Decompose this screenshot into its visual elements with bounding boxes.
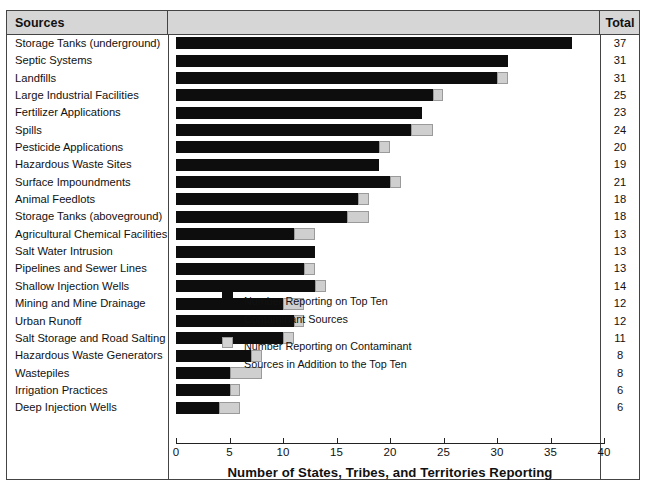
total-value: 18 xyxy=(600,208,640,225)
bar-segment-additional xyxy=(379,141,390,153)
bar-segment-additional xyxy=(294,228,315,240)
bar-segment-additional xyxy=(411,124,432,136)
bar-segment-top-ten xyxy=(176,55,508,67)
bar-segment-additional xyxy=(497,72,508,84)
legend-item: Number Reporting on Contaminant Sources … xyxy=(222,336,437,372)
bar-segment-top-ten xyxy=(176,263,304,275)
bar-segment-top-ten xyxy=(176,72,497,84)
bar-segment-additional xyxy=(347,211,368,223)
bar-segment-top-ten xyxy=(176,159,379,171)
source-label: Hazardous Waste Generators xyxy=(7,347,168,364)
total-column: 3731312523242019211818131313141212118866 xyxy=(600,35,640,417)
bar-plot-area xyxy=(168,35,600,479)
source-label: Spills xyxy=(7,122,168,139)
bar-segment-additional xyxy=(358,193,369,205)
total-value: 8 xyxy=(600,365,640,382)
chart-legend: Number Reporting on Top Ten Contaminant … xyxy=(222,291,437,381)
source-label: Surface Impoundments xyxy=(7,174,168,191)
source-label-column: Storage Tanks (underground)Septic System… xyxy=(7,35,168,417)
bar-segment-top-ten xyxy=(176,124,411,136)
total-value: 20 xyxy=(600,139,640,156)
total-value: 21 xyxy=(600,174,640,191)
source-label: Urban Runoff xyxy=(7,313,168,330)
source-label: Fertilizer Applications xyxy=(7,104,168,121)
source-label: Shallow Injection Wells xyxy=(7,278,168,295)
total-value: 6 xyxy=(600,399,640,416)
bar-row xyxy=(168,139,600,156)
bar-segment-additional xyxy=(304,263,315,275)
bar-row xyxy=(168,243,600,260)
total-value: 19 xyxy=(600,156,640,173)
total-value: 12 xyxy=(600,295,640,312)
bar-segment-additional xyxy=(433,89,444,101)
bar-segment-additional xyxy=(219,402,240,414)
bar-segment-top-ten xyxy=(176,384,230,396)
source-label: Mining and Mine Drainage xyxy=(7,295,168,312)
source-label: Animal Feedlots xyxy=(7,191,168,208)
source-label: Large Industrial Facilities xyxy=(7,87,168,104)
header-chart-area xyxy=(168,11,600,35)
source-label: Storage Tanks (aboveground) xyxy=(7,208,168,225)
source-label: Septic Systems xyxy=(7,52,168,69)
bar-row xyxy=(168,52,600,69)
source-label: Pipelines and Sewer Lines xyxy=(7,260,168,277)
total-value: 13 xyxy=(600,226,640,243)
bar-segment-top-ten xyxy=(176,176,390,188)
total-value: 23 xyxy=(600,104,640,121)
total-value: 11 xyxy=(600,330,640,347)
bar-row xyxy=(168,260,600,277)
legend-label: Number Reporting on Contaminant Sources … xyxy=(244,340,411,370)
bar-segment-top-ten xyxy=(176,193,358,205)
total-value: 13 xyxy=(600,243,640,260)
table-header-row: Sources Total xyxy=(7,11,639,35)
bar-segment-additional xyxy=(390,176,401,188)
bar-segment-additional xyxy=(230,384,241,396)
total-value: 24 xyxy=(600,122,640,139)
total-value: 31 xyxy=(600,70,640,87)
total-value: 18 xyxy=(600,191,640,208)
source-label: Storage Tanks (underground) xyxy=(7,35,168,52)
bar-row xyxy=(168,35,600,52)
source-label: Hazardous Waste Sites xyxy=(7,156,168,173)
source-label: Pesticide Applications xyxy=(7,139,168,156)
table-frame: Sources Total Storage Tanks (underground… xyxy=(6,10,640,480)
total-value: 8 xyxy=(600,347,640,364)
header-sources: Sources xyxy=(7,11,168,35)
legend-swatch-gray xyxy=(222,337,233,348)
source-label: Landfills xyxy=(7,70,168,87)
bar-row xyxy=(168,70,600,87)
bar-row xyxy=(168,122,600,139)
legend-swatch-black xyxy=(222,292,233,303)
source-label: Wastepiles xyxy=(7,365,168,382)
total-value: 6 xyxy=(600,382,640,399)
bar-segment-top-ten xyxy=(176,246,315,258)
bar-row xyxy=(168,226,600,243)
total-value: 12 xyxy=(600,313,640,330)
bar-row xyxy=(168,174,600,191)
source-label: Deep Injection Wells xyxy=(7,399,168,416)
chart-page: Sources Total Storage Tanks (underground… xyxy=(0,0,647,493)
source-label: Irrigation Practices xyxy=(7,382,168,399)
bar-segment-top-ten xyxy=(176,211,347,223)
bar-segment-top-ten xyxy=(176,141,379,153)
header-total: Total xyxy=(600,11,640,35)
bar-segment-top-ten xyxy=(176,228,294,240)
bar-row xyxy=(168,208,600,225)
total-value: 31 xyxy=(600,52,640,69)
bar-row xyxy=(168,191,600,208)
bar-row xyxy=(168,399,600,416)
bar-row xyxy=(168,104,600,121)
legend-label: Number Reporting on Top Ten Contaminant … xyxy=(244,295,388,325)
legend-item: Number Reporting on Top Ten Contaminant … xyxy=(222,291,437,327)
bar-segment-top-ten xyxy=(176,107,422,119)
total-value: 37 xyxy=(600,35,640,52)
source-label: Agricultural Chemical Facilities xyxy=(7,226,168,243)
source-label: Salt Water Intrusion xyxy=(7,243,168,260)
total-value: 14 xyxy=(600,278,640,295)
bar-row xyxy=(168,382,600,399)
total-value: 25 xyxy=(600,87,640,104)
bar-segment-top-ten xyxy=(176,89,433,101)
bar-segment-top-ten xyxy=(176,402,219,414)
bar-row xyxy=(168,87,600,104)
total-value: 13 xyxy=(600,260,640,277)
